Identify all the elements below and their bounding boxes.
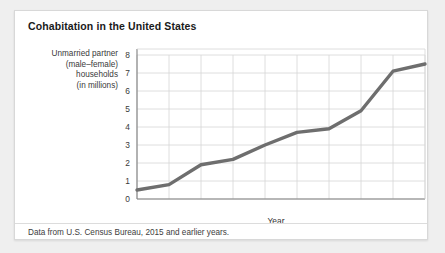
page-title: Cohabitation in the United States <box>28 20 196 32</box>
y-axis-label-line-2: (male–female) <box>20 60 118 71</box>
svg-text:2010: 2010 <box>384 204 403 205</box>
x-tick-labels: 1970197519801985199019952000200520102015 <box>128 204 429 205</box>
svg-text:8: 8 <box>125 50 130 60</box>
svg-text:7: 7 <box>125 68 130 78</box>
figure-card: Cohabitation in the United States Unmarr… <box>14 10 428 240</box>
y-axis-label-line-3: households <box>20 70 118 81</box>
line-chart: 012345678 197019751980198519901995200020… <box>123 45 429 205</box>
caption-divider <box>15 223 427 224</box>
svg-text:0: 0 <box>125 194 130 204</box>
svg-text:2015: 2015 <box>416 204 429 205</box>
svg-text:1980: 1980 <box>192 204 211 205</box>
svg-text:6: 6 <box>125 86 130 96</box>
svg-text:2000: 2000 <box>320 204 339 205</box>
svg-text:5: 5 <box>125 104 130 114</box>
y-axis-label-line-4: (in millions) <box>20 81 118 92</box>
svg-text:1: 1 <box>125 176 130 186</box>
figure-caption: Data from U.S. Census Bureau, 2015 and e… <box>28 228 229 237</box>
svg-text:3: 3 <box>125 140 130 150</box>
svg-text:1990: 1990 <box>256 204 275 205</box>
svg-text:1975: 1975 <box>160 204 179 205</box>
y-tick-labels: 012345678 <box>125 50 130 204</box>
y-axis-label: Unmarried partner (male–female) househol… <box>20 49 118 91</box>
chart-plot-area: 012345678 197019751980198519901995200020… <box>123 45 429 205</box>
svg-text:1970: 1970 <box>128 204 147 205</box>
svg-text:2: 2 <box>125 158 130 168</box>
svg-text:2005: 2005 <box>352 204 371 205</box>
svg-text:4: 4 <box>125 122 130 132</box>
x-axis-label: Year <box>123 216 429 226</box>
y-axis-label-line-1: Unmarried partner <box>20 49 118 60</box>
svg-text:1995: 1995 <box>288 204 307 205</box>
svg-text:1985: 1985 <box>224 204 243 205</box>
